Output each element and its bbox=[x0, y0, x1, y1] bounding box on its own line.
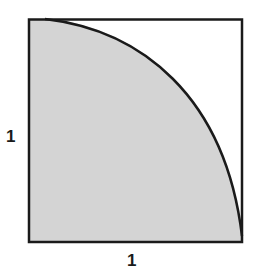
diagram-canvas bbox=[0, 0, 255, 274]
bottom-side-label: 1 bbox=[127, 252, 136, 269]
left-side-label: 1 bbox=[6, 128, 15, 145]
